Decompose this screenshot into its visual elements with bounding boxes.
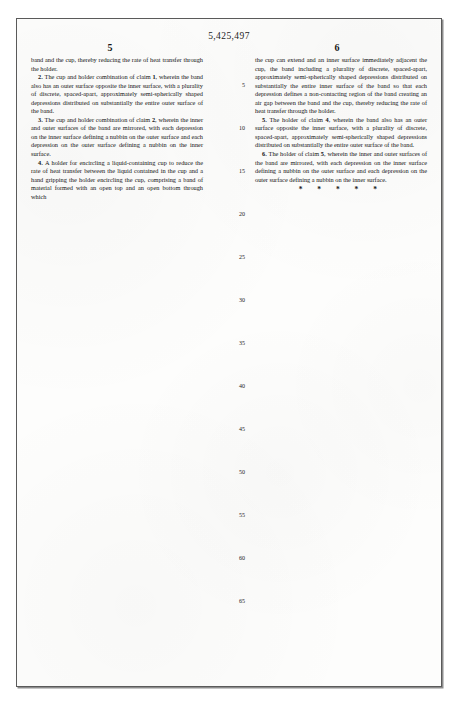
claim-reference: 1 bbox=[152, 73, 155, 80]
line-number: 30 bbox=[223, 297, 245, 304]
claim-reference: 4 bbox=[326, 116, 329, 123]
line-number: 55 bbox=[223, 512, 245, 519]
claim-reference: 2 bbox=[152, 116, 155, 123]
text-column-left: band and the cup, thereby reducing the r… bbox=[31, 56, 203, 201]
paragraph-claim-2: 2. The cup and holder combination of cla… bbox=[31, 73, 203, 116]
line-number: 60 bbox=[223, 555, 245, 562]
paragraph-claim-6: 6. The holder of claim 5, wherein the in… bbox=[255, 150, 427, 184]
claim-reference: 5 bbox=[321, 150, 324, 157]
line-number: 35 bbox=[223, 340, 245, 347]
paragraph-claim-5: 5. The holder of claim 4, wherein the ba… bbox=[255, 116, 427, 150]
column-number-right: 6 bbox=[237, 42, 437, 53]
claim-number: 2. bbox=[38, 73, 45, 80]
line-number: 15 bbox=[223, 168, 245, 175]
line-number: 20 bbox=[223, 211, 245, 218]
line-number: 45 bbox=[223, 426, 245, 433]
line-number: 50 bbox=[223, 469, 245, 476]
paragraph-claim-4-continuation: the cup can extend and an inner surface … bbox=[255, 56, 427, 116]
text-column-right: the cup can extend and an inner surface … bbox=[255, 56, 427, 184]
paragraph-claim-1-continuation: band and the cup, thereby reducing the r… bbox=[31, 56, 203, 73]
claim-number: 4. bbox=[38, 159, 45, 166]
line-number: 25 bbox=[223, 254, 245, 261]
line-number-gutter: 5101520253035404550556065 bbox=[223, 56, 245, 687]
column-number-left: 5 bbox=[17, 42, 203, 53]
scanned-page-sheet: 5,425,497 5 6 band and the cup, thereby … bbox=[16, 18, 442, 687]
line-number: 65 bbox=[223, 598, 245, 605]
claim-number: 3. bbox=[38, 116, 45, 123]
paragraph-claim-3: 3. The cup and holder combination of cla… bbox=[31, 116, 203, 159]
patent-number-header: 5,425,497 bbox=[17, 31, 441, 41]
claim-number: 5. bbox=[262, 116, 269, 123]
line-number: 10 bbox=[223, 125, 245, 132]
claim-number: 6. bbox=[262, 150, 269, 157]
line-number: 40 bbox=[223, 383, 245, 390]
line-number: 5 bbox=[223, 82, 245, 89]
paragraph-claim-4: 4. A holder for encircling a liquid-cont… bbox=[31, 159, 203, 202]
end-of-claims-asterisks: * * * * * bbox=[255, 185, 427, 194]
